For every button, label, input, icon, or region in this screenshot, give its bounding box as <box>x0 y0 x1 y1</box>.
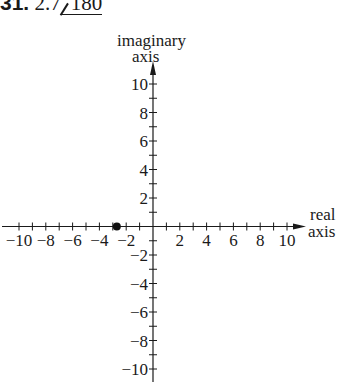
axes <box>2 61 306 382</box>
x-tick-label: −4 <box>90 231 109 250</box>
data-points <box>113 223 121 231</box>
y-tick-label: 8 <box>140 104 149 123</box>
y-tick-label: −8 <box>130 332 148 351</box>
x-tick-label: 10 <box>279 231 296 250</box>
imaginary-axis-label-line2: axis <box>132 47 159 66</box>
data-point <box>113 223 121 231</box>
real-axis-arrow-icon <box>293 224 306 230</box>
x-tick-label: −8 <box>37 231 55 250</box>
y-tick-label: −10 <box>121 360 148 379</box>
x-tick-label: −6 <box>64 231 82 250</box>
x-tick-label: 4 <box>202 231 211 250</box>
y-tick-label: 6 <box>140 132 149 151</box>
complex-plane-plot: −10−8−6−4−2246810108642−2−4−6−8−10 imagi… <box>0 0 345 382</box>
y-tick-label: 10 <box>131 75 148 94</box>
y-tick-label: −4 <box>130 275 149 294</box>
y-tick-label: −2 <box>130 246 148 265</box>
real-axis-label-line2: axis <box>308 222 335 241</box>
y-tick-label: −6 <box>130 303 148 322</box>
x-tick-label: 8 <box>256 231 265 250</box>
x-tick-label: 2 <box>176 231 185 250</box>
y-tick-label: 2 <box>140 189 149 208</box>
x-tick-label: 6 <box>229 231 238 250</box>
x-tick-label: −10 <box>6 231 33 250</box>
y-tick-label: 4 <box>140 161 149 180</box>
